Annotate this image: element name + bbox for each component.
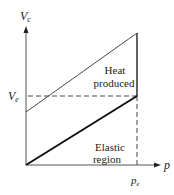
elastic-region-label-line2: region [93,153,122,165]
heat-produced-label-line1: Heat [105,64,126,76]
diagram-canvas: Vc Ve p pe Heat produced Elastic region [0,0,174,195]
y-axis-label: Vc [20,9,31,24]
pe-tick-label: pe [130,174,140,188]
elastic-region-label-line1: Elastic [95,141,125,153]
x-axis-label: p [163,158,170,172]
ve-tick-label: Ve [8,89,19,104]
y-axis-arrow-icon [24,26,29,33]
x-axis-arrow-icon [154,163,161,168]
heat-produced-label-line2: produced [94,77,135,89]
